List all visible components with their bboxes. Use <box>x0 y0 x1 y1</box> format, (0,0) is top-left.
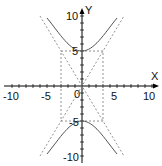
y-axis-label: Y <box>85 4 93 16</box>
y-arrow-icon <box>80 8 85 14</box>
y-tick-label: 5 <box>72 45 78 57</box>
x-arrow-icon <box>153 84 159 89</box>
origin-label: 0 <box>74 88 80 100</box>
y-tick-label: 10 <box>66 10 78 22</box>
x-tick-label: 5 <box>111 90 117 102</box>
y-tick-label: -5 <box>69 116 79 128</box>
x-axis-label: X <box>151 70 159 82</box>
x-tick-label: -5 <box>41 90 51 102</box>
y-tick-label: -10 <box>63 151 79 163</box>
x-tick-label: 10 <box>143 90 155 102</box>
hyperbola-chart: X Y -10 -5 0 5 10 10 5 -5 -10 <box>0 0 162 166</box>
x-tick-label: -10 <box>3 90 19 102</box>
